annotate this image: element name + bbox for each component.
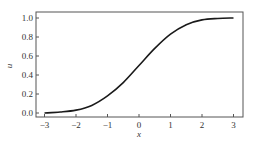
y-tick-label: 0.8 (22, 32, 34, 42)
y-tick-label: 0.0 (22, 108, 34, 118)
x-tick-label: 2 (200, 120, 205, 130)
y-axis-label: u (4, 63, 14, 68)
x-tick-label: 1 (168, 120, 173, 130)
x-tick-label: −2 (71, 120, 81, 130)
sigmoid-curve (45, 18, 234, 113)
x-tick-label: −1 (103, 120, 113, 130)
x-axis-label: x (136, 129, 141, 139)
x-tick-label: 3 (231, 120, 236, 130)
sigmoid-line-chart: −3−2−10123 0.00.20.40.60.81.0 x u (0, 0, 255, 149)
y-tick-label: 0.4 (22, 70, 34, 80)
y-tick-label: 0.6 (22, 51, 34, 61)
y-tick-label: 0.2 (22, 89, 33, 99)
data-series (45, 18, 234, 113)
x-axis-ticks: −3−2−10123 (40, 114, 237, 130)
y-tick-label: 1.0 (22, 13, 34, 23)
x-tick-label: −3 (40, 120, 50, 130)
